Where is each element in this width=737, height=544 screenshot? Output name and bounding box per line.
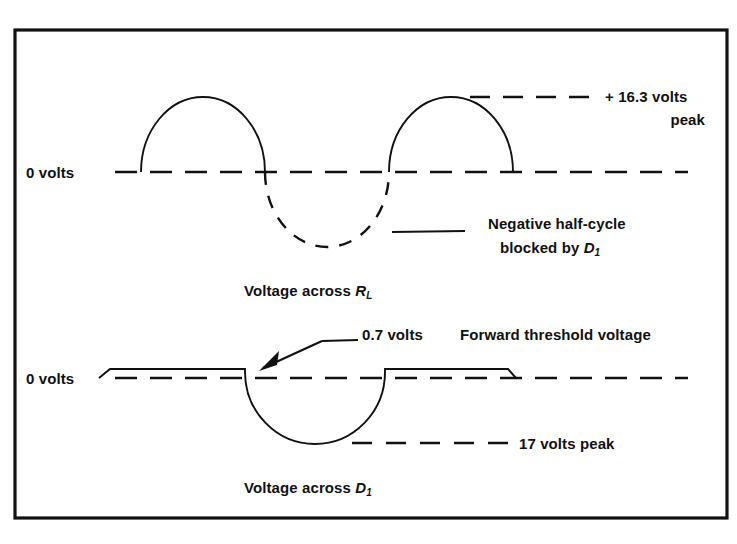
top-peak-label-line1: + 16.3 volts (605, 87, 688, 107)
blocked-label-leader (392, 231, 465, 232)
blocked-label-line1: Negative half-cycle (488, 214, 626, 234)
diode-symbol-d1-subscript: 1 (595, 247, 601, 258)
blocked-label-text: blocked by (500, 239, 584, 256)
top-panel-caption: Voltage across RL (244, 281, 372, 301)
forward-threshold-value-label: 0.7 volts (362, 325, 423, 345)
top-negative-half-cycle-1 (265, 172, 389, 247)
diode-symbol-d1-caption-subscript: 1 (366, 487, 372, 498)
top-positive-half-cycle-1 (141, 97, 265, 172)
bottom-peak-label: 17 volts peak (519, 434, 615, 454)
top-caption-text: Voltage across (244, 282, 355, 299)
threshold-arrow-leader (322, 340, 358, 341)
blocked-label-line2: blocked by D1 (500, 238, 600, 258)
threshold-arrow-head (259, 351, 279, 371)
diode-symbol-d1: D (584, 239, 595, 256)
top-zero-volts-label: 0 volts (26, 163, 74, 183)
resistor-symbol-rl-subscript: L (366, 290, 372, 301)
diode-voltage-trace (99, 369, 516, 444)
waveform-drawing (0, 0, 737, 544)
top-peak-label-line2: peak (540, 110, 705, 130)
resistor-symbol-rl: R (355, 282, 366, 299)
bottom-caption-text: Voltage across (244, 479, 355, 496)
bottom-panel-caption: Voltage across D1 (244, 478, 372, 498)
diode-symbol-d1-caption: D (355, 479, 366, 496)
forward-threshold-text-label: Forward threshold voltage (460, 325, 651, 345)
top-positive-half-cycle-2 (389, 97, 513, 172)
bottom-zero-volts-label: 0 volts (26, 369, 74, 389)
rectifier-waveform-figure: 0 volts + 16.3 volts peak Negative half-… (0, 0, 737, 544)
